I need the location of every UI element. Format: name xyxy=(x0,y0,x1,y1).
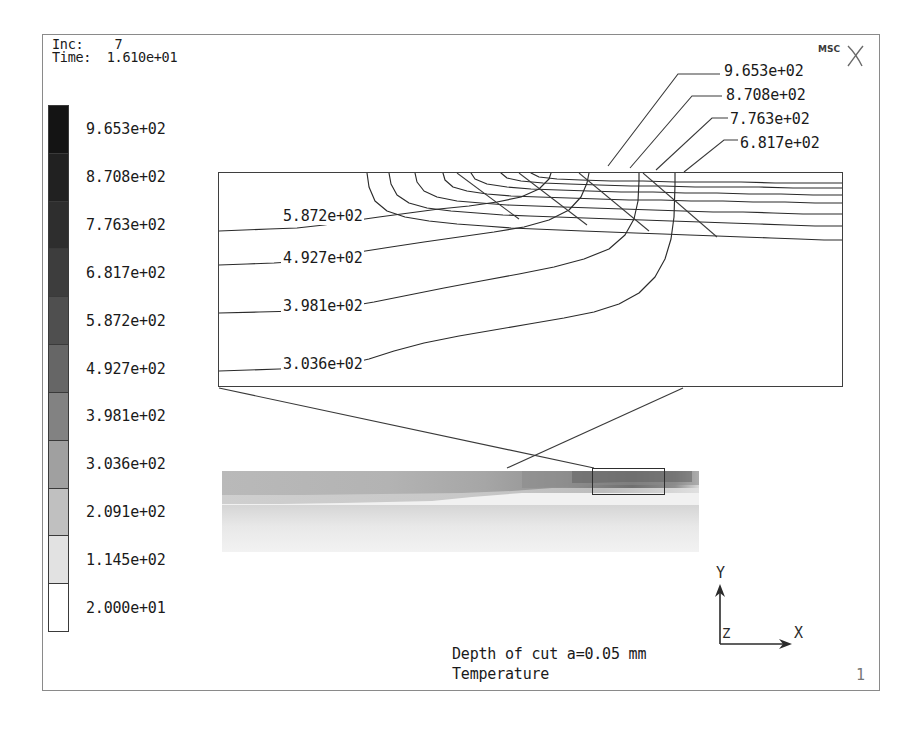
detail-region-highlight xyxy=(592,468,665,495)
colorbar-band-10 xyxy=(49,584,68,631)
callout-label-776: 7.763e+02 xyxy=(730,110,809,128)
callout-label-682: 6.817e+02 xyxy=(740,134,819,152)
contour-label-398: 3.981e+02 xyxy=(281,297,364,315)
caption-depth-of-cut: Depth of cut a=0.05 mm xyxy=(452,645,646,663)
colorbar-label-7: 3.036e+02 xyxy=(86,455,165,473)
colorbar-band-1 xyxy=(49,154,68,202)
detail-contour-box: 5.872e+02 4.927e+02 3.981e+02 3.036e+02 xyxy=(218,172,843,387)
time-line: Time: 1.610e+01 xyxy=(52,49,177,65)
colorbar-label-9: 1.145e+02 xyxy=(86,551,165,569)
colorbar-label-5: 4.927e+02 xyxy=(86,360,165,378)
colorbar-band-0 xyxy=(49,106,68,154)
callout-label-965: 9.653e+02 xyxy=(724,62,803,80)
callout-label-871: 8.708e+02 xyxy=(726,86,805,104)
page-number: 1 xyxy=(856,666,865,684)
colorbar-label-10: 2.000e+01 xyxy=(86,599,165,617)
colorbar-band-5 xyxy=(49,345,68,393)
colorbar-band-7 xyxy=(49,441,68,489)
axis-triad: Y X Z xyxy=(700,566,810,666)
colorbar-label-3: 6.817e+02 xyxy=(86,264,165,282)
colorbar-band-8 xyxy=(49,489,68,537)
colorbar-band-4 xyxy=(49,297,68,345)
colorbar-band-3 xyxy=(49,249,68,297)
colorbar-band-2 xyxy=(49,202,68,250)
axis-label-z: Z xyxy=(722,625,730,641)
contour-label-493: 4.927e+02 xyxy=(281,249,364,267)
colorbar-label-8: 2.091e+02 xyxy=(86,503,165,521)
colorbar xyxy=(48,105,69,632)
colorbar-band-9 xyxy=(49,536,68,584)
colorbar-label-0: 9.653e+02 xyxy=(86,120,165,138)
axis-label-y: Y xyxy=(716,566,725,582)
colorbar-label-2: 7.763e+02 xyxy=(86,216,165,234)
colorbar-band-6 xyxy=(49,393,68,441)
magnification-funnel xyxy=(210,380,690,472)
caption-quantity: Temperature xyxy=(452,665,549,683)
colorbar-label-4: 5.872e+02 xyxy=(86,312,165,330)
axis-label-x: X xyxy=(794,624,803,642)
colorbar-label-6: 3.981e+02 xyxy=(86,407,165,425)
colorbar-label-1: 8.708e+02 xyxy=(86,168,165,186)
contour-label-587: 5.872e+02 xyxy=(281,207,364,225)
contour-label-304: 3.036e+02 xyxy=(281,355,364,373)
